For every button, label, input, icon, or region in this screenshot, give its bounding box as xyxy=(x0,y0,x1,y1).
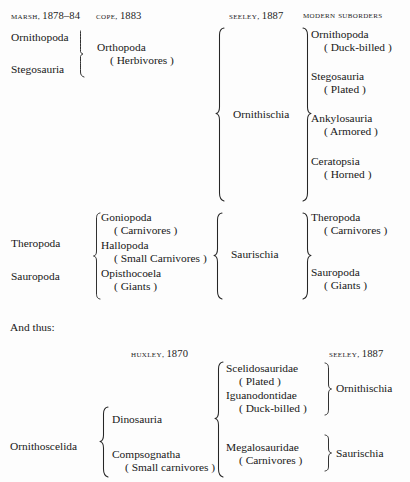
seeley-item-saurischia: Saurischia xyxy=(231,248,278,261)
header-cope-name: COPE xyxy=(96,11,115,21)
modern-suborder-sauropoda: Sauropoda ( Giants ) xyxy=(311,266,367,292)
huxley-note-compsognatha: ( Small carnivores ) xyxy=(112,461,215,474)
header-cope-year: 1883 xyxy=(120,10,142,21)
modern-note-stegosauria: ( Plated ) xyxy=(311,83,366,96)
brace-bottom-saurischia xyxy=(322,434,335,472)
header-marsh-name: MARSH xyxy=(11,11,38,21)
cope-item-hallopoda: Hallopoda ( Small Carnivores ) xyxy=(101,239,207,265)
brace-modern-saurischian xyxy=(296,212,312,300)
marsh-item-ornithopoda: Ornithopoda xyxy=(11,31,69,44)
cope-item-opisthocoela: Opisthocoela ( Giants ) xyxy=(101,267,161,293)
header-marsh-year: 1878–84 xyxy=(42,10,80,21)
bottom-root-ornithoscelida: Ornithoscelida xyxy=(10,440,77,453)
family-note-megalosauridae: ( Carnivores ) xyxy=(226,454,302,467)
marsh-item-sauropoda: Sauropoda xyxy=(11,270,60,283)
family-item-iguanodontidae: Iguanodontidae ( Duck-billed ) xyxy=(226,389,307,415)
header-seeley-year: 1887 xyxy=(262,10,284,21)
classification-page: MARSH, 1878–84 COPE, 1883 SEELEY, 1887 M… xyxy=(0,0,410,482)
modern-taxon-ankylosauria: Ankylosauria xyxy=(311,112,372,124)
modern-note-sauropoda: ( Giants ) xyxy=(311,279,367,292)
cope-note-opisthocoela: ( Giants ) xyxy=(101,280,161,293)
header-huxley-year: 1870 xyxy=(166,348,188,359)
family-item-scelidosauridae: Scelidosauridae ( Plated ) xyxy=(226,362,298,388)
header-modern-suborders-label: MODERN SUBORDERS xyxy=(303,10,383,20)
marsh-item-stegosauria: Stegosauria xyxy=(11,63,64,76)
modern-note-ornithopoda: ( Duck-billed ) xyxy=(311,41,392,54)
modern-suborder-ankylosauria: Ankylosauria ( Armored ) xyxy=(311,112,378,138)
header-huxley-name: HUXLEY xyxy=(131,349,162,359)
brace-modern-ornithischian xyxy=(296,27,312,202)
huxley-taxon-dinosauria: Dinosauria xyxy=(112,413,162,425)
cope-taxon-hallopoda: Hallopoda xyxy=(101,239,148,251)
modern-suborder-stegosauria: Stegosauria ( Plated ) xyxy=(311,70,366,96)
modern-note-theropoda: ( Carnivores ) xyxy=(311,224,387,237)
brace-marsh-ornithischian xyxy=(78,30,92,78)
header-huxley: HUXLEY, 1870 xyxy=(131,348,188,359)
header-seeley-name: SEELEY xyxy=(229,11,257,21)
family-taxon-megalosauridae: Megalosauridae xyxy=(226,441,299,453)
connector-text: And thus: xyxy=(10,321,55,333)
huxley-taxon-compsognatha: Compsognatha xyxy=(112,448,180,460)
modern-suborder-ornithopoda: Ornithopoda ( Duck-billed ) xyxy=(311,28,392,54)
header-cope: COPE, 1883 xyxy=(96,10,141,21)
brace-ornithoscelida xyxy=(99,406,113,478)
family-item-megalosauridae: Megalosauridae ( Carnivores ) xyxy=(226,441,302,467)
header-marsh: MARSH, 1878–84 xyxy=(11,10,80,21)
modern-suborder-ceratopsia: Ceratopsia ( Horned ) xyxy=(311,155,371,181)
header-seeley: SEELEY, 1887 xyxy=(229,10,283,21)
modern-suborder-theropoda: Theropoda ( Carnivores ) xyxy=(311,211,387,237)
modern-taxon-theropoda: Theropoda xyxy=(311,211,360,223)
header-seeley-bottom-name: SEELEY xyxy=(329,349,357,359)
huxley-item-dinosauria: Dinosauria xyxy=(112,413,162,426)
cope-note-hallopoda: ( Small Carnivores ) xyxy=(101,252,207,265)
bottom-seeley-saurischia: Saurischia xyxy=(336,447,383,460)
modern-note-ankylosauria: ( Armored ) xyxy=(311,125,378,138)
modern-taxon-sauropoda: Sauropoda xyxy=(311,266,360,278)
header-seeley-bottom-year: 1887 xyxy=(362,348,384,359)
brace-bottom-ornithischia xyxy=(322,362,335,416)
family-taxon-iguanodontidae: Iguanodontidae xyxy=(226,389,297,401)
header-modern-suborders: MODERN SUBORDERS xyxy=(303,10,383,20)
seeley-item-ornithischia: Ornithischia xyxy=(233,108,289,121)
cope-note-orthopoda: ( Herbivores ) xyxy=(97,54,174,67)
modern-taxon-ceratopsia: Ceratopsia xyxy=(311,155,360,167)
family-note-iguanodontidae: ( Duck-billed ) xyxy=(226,402,307,415)
cope-taxon-opisthocoela: Opisthocoela xyxy=(101,267,161,279)
modern-note-ceratopsia: ( Horned ) xyxy=(311,168,371,181)
family-note-scelidosauridae: ( Plated ) xyxy=(226,375,298,388)
header-seeley-bottom: SEELEY, 1887 xyxy=(329,348,383,359)
family-taxon-scelidosauridae: Scelidosauridae xyxy=(226,362,298,374)
brace-seeley-ornithischia xyxy=(215,27,231,202)
modern-taxon-ornithopoda: Ornithopoda xyxy=(311,28,369,40)
cope-taxon-orthopoda: Orthopoda xyxy=(97,41,146,53)
huxley-item-compsognatha: Compsognatha ( Small carnivores ) xyxy=(112,448,215,474)
modern-taxon-stegosauria: Stegosauria xyxy=(311,70,364,82)
marsh-item-theropoda: Theropoda xyxy=(11,237,60,250)
bottom-seeley-ornithischia: Ornithischia xyxy=(336,382,392,395)
cope-item-orthopoda: Orthopoda ( Herbivores ) xyxy=(97,41,174,67)
cope-note-goniopoda: ( Carnivores ) xyxy=(101,224,177,237)
brace-seeley-saurischia xyxy=(213,212,229,300)
cope-taxon-goniopoda: Goniopoda xyxy=(101,211,152,223)
cope-item-goniopoda: Goniopoda ( Carnivores ) xyxy=(101,211,177,237)
